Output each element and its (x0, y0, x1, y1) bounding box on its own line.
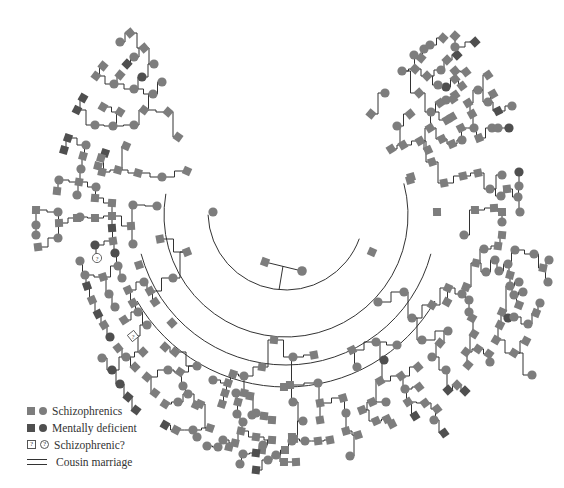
female-circle-icon (381, 397, 390, 406)
male-square-icon (371, 416, 382, 427)
male-square-icon (108, 236, 117, 245)
female-circle-icon (288, 397, 297, 406)
female-circle-icon (76, 164, 85, 173)
female-circle-icon (213, 442, 222, 451)
female-circle-icon (392, 121, 401, 130)
female-circle-icon (518, 287, 527, 296)
female-circle-icon (373, 297, 382, 306)
female-circle-icon (238, 417, 247, 426)
male-square-icon (441, 54, 452, 65)
male-square-icon (315, 398, 324, 407)
male-square-icon (521, 336, 532, 347)
female-circle-icon (239, 371, 248, 380)
male-square-icon (385, 143, 396, 154)
legend-schizophrenic-question: ? ? Schizophrenic? (27, 436, 137, 453)
question-mark-icon: ? (96, 256, 99, 262)
female-circle-icon (287, 436, 296, 445)
male-square-icon (404, 108, 415, 119)
female-circle-icon (485, 184, 494, 193)
male-square-icon (98, 272, 108, 282)
female-circle-icon (109, 79, 118, 88)
female-circle-icon (514, 181, 523, 190)
female-circle-icon (429, 415, 438, 424)
female-circle-icon (231, 388, 240, 397)
dark-circle-icon (39, 424, 47, 432)
female-circle-icon (110, 302, 119, 311)
female-circle-icon (496, 191, 505, 200)
female-circle-icon (544, 255, 553, 264)
legend-mentally-deficient: Mentally deficient (27, 419, 137, 436)
female-circle-icon (313, 378, 322, 387)
generation-arc (164, 183, 408, 337)
female-circle-icon (298, 416, 307, 425)
male-square-icon (87, 295, 98, 306)
female-circle-icon (535, 298, 544, 307)
male-square-icon (205, 423, 215, 433)
male-square-icon (472, 343, 483, 354)
female-circle-icon (121, 352, 130, 361)
male-square-icon (347, 345, 358, 356)
female-circle-icon (457, 135, 466, 144)
male-square-icon (260, 412, 269, 421)
female-circle-icon (345, 451, 354, 460)
male-square-icon (137, 346, 148, 357)
male-square-icon (270, 336, 279, 345)
female-circle-icon (543, 277, 552, 286)
female-circle-icon (157, 172, 166, 181)
male-square-icon (78, 151, 88, 161)
male-square-icon (268, 416, 277, 425)
male-square-icon (233, 397, 243, 407)
male-square-icon (124, 27, 135, 38)
female-circle-icon (258, 440, 267, 449)
male-square-icon (73, 214, 81, 222)
female-circle-icon (473, 85, 482, 94)
male-square-icon (32, 206, 40, 214)
male-square-icon (128, 298, 139, 309)
male-square-icon (236, 426, 245, 435)
female-circle-icon (507, 101, 516, 110)
female-circle-icon (497, 170, 506, 179)
female-circle-icon (157, 77, 166, 86)
male-square-icon (409, 63, 420, 74)
female-circle-icon (208, 375, 217, 384)
male-square-icon (93, 309, 104, 320)
male-square-icon (357, 405, 367, 415)
female-circle-icon (479, 244, 488, 253)
male-square-icon (245, 391, 254, 400)
female-circle-icon (297, 266, 307, 276)
female-circle-icon (183, 389, 192, 398)
male-square-icon (473, 168, 483, 178)
generation-arc (208, 215, 359, 290)
legend-label: Mentally deficient (52, 422, 137, 434)
female-circle-icon (523, 319, 532, 328)
male-square-icon (155, 234, 164, 243)
male-square-icon (467, 109, 478, 120)
lineage-line (262, 340, 274, 367)
marriage-line (265, 262, 302, 271)
male-square-icon (63, 133, 73, 143)
legend-label: Schizophrenic? (54, 439, 125, 451)
male-square-icon (491, 335, 502, 346)
male-square-icon (252, 466, 261, 475)
female-circle-icon (271, 450, 280, 459)
male-square-icon (53, 187, 62, 196)
male-square-icon (159, 341, 170, 352)
male-square-icon (447, 139, 458, 150)
male-square-icon (108, 224, 117, 233)
female-circle-icon (128, 200, 137, 209)
female-circle-icon (379, 355, 388, 364)
female-circle-icon (514, 167, 523, 176)
female-circle-icon (31, 220, 40, 229)
female-circle-icon (81, 140, 90, 149)
female-circle-icon (503, 259, 512, 268)
female-circle-icon (485, 357, 494, 366)
male-square-icon (78, 93, 89, 104)
female-circle-icon (31, 230, 40, 239)
male-square-icon (365, 108, 376, 119)
male-square-icon (182, 166, 193, 177)
male-square-icon (421, 70, 432, 81)
male-square-icon (281, 446, 289, 454)
female-circle-icon (400, 384, 409, 393)
male-square-icon (495, 320, 506, 331)
male-square-icon (134, 260, 144, 270)
